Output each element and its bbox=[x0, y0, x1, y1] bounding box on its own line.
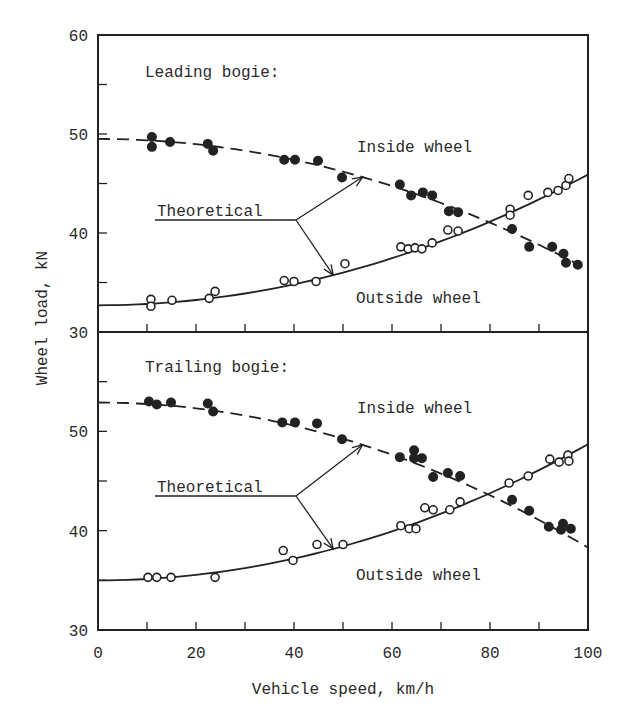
inside-wheel-data-point bbox=[407, 191, 415, 199]
outside-wheel-data-point bbox=[546, 455, 554, 463]
leading-inside-wheel-label: Inside wheel bbox=[357, 139, 472, 157]
outside-wheel-data-point bbox=[429, 506, 437, 514]
outside-wheel-data-point bbox=[397, 522, 405, 530]
x-tick-label: 40 bbox=[284, 645, 303, 663]
inside-wheel-data-point bbox=[209, 407, 217, 415]
outside-wheel-data-point bbox=[446, 506, 454, 514]
outside-wheel-data-point bbox=[167, 573, 175, 581]
y-tick-label: 40 bbox=[69, 524, 88, 542]
inside-wheel-data-point bbox=[313, 419, 321, 427]
leading-theoretical-arrows bbox=[155, 177, 363, 275]
inside-wheel-data-point bbox=[559, 520, 567, 528]
inside-wheel-data-point bbox=[278, 418, 286, 426]
trailing-inside-wheel-label: Inside wheel bbox=[357, 400, 472, 418]
arrow-icon bbox=[352, 177, 363, 186]
outside-wheel-data-point bbox=[554, 186, 562, 194]
inside-wheel-data-point bbox=[548, 243, 556, 251]
inside-wheel-data-point bbox=[314, 157, 322, 165]
inside-wheel-data-point bbox=[508, 496, 516, 504]
inside-wheel-data-point bbox=[167, 398, 175, 406]
trailing-outside-wheel-label: Outside wheel bbox=[356, 567, 481, 585]
leading-bogie-title: Leading bogie: bbox=[145, 64, 279, 82]
x-tick-label: 80 bbox=[480, 645, 499, 663]
inside-wheel-data-point bbox=[429, 473, 437, 481]
inside-wheel-data-point bbox=[166, 138, 174, 146]
outside-wheel-data-point bbox=[555, 458, 563, 466]
y-tick-label: 50 bbox=[69, 424, 88, 442]
outside-wheel-data-point bbox=[524, 191, 532, 199]
wheel-load-chart: Leading bogie: Inside wheel Outside whee… bbox=[0, 0, 636, 727]
y-axis-label: Wheel load, kN bbox=[34, 251, 52, 385]
outside-wheel-data-point bbox=[444, 226, 452, 234]
inside-wheel-theoretical-curve bbox=[98, 403, 588, 548]
outside-wheel-data-point bbox=[418, 245, 426, 253]
inside-wheel-data-point bbox=[525, 507, 533, 515]
outside-wheel-data-point bbox=[144, 573, 152, 581]
outside-wheel-data-point bbox=[147, 302, 155, 310]
inside-wheel-data-point bbox=[396, 180, 404, 188]
inside-wheel-data-point bbox=[559, 250, 567, 258]
inside-wheel-data-point bbox=[574, 260, 582, 268]
arrow-icon bbox=[324, 264, 333, 275]
outside-wheel-data-point bbox=[153, 573, 161, 581]
x-tick-label: 0 bbox=[93, 645, 103, 663]
x-axis-label: Vehicle speed, km/h bbox=[252, 681, 434, 699]
outside-wheel-data-point bbox=[205, 294, 213, 302]
inside-wheel-data-point bbox=[567, 524, 575, 532]
inside-wheel-data-point bbox=[525, 243, 533, 251]
arrow-icon bbox=[324, 538, 333, 549]
y-tick-label: 30 bbox=[69, 325, 88, 343]
inside-wheel-data-point bbox=[428, 191, 436, 199]
inside-wheel-data-point bbox=[419, 188, 427, 196]
outside-wheel-theoretical-curve bbox=[98, 444, 588, 580]
outside-wheel-data-point bbox=[421, 504, 429, 512]
outside-wheel-theoretical-curve bbox=[98, 175, 588, 306]
leading-outside-wheel-label: Outside wheel bbox=[356, 290, 481, 308]
inside-wheel-data-point bbox=[508, 225, 516, 233]
inside-wheel-data-point bbox=[444, 469, 452, 477]
outside-wheel-data-point bbox=[544, 188, 552, 196]
inside-wheel-data-point bbox=[562, 259, 570, 267]
trailing-bogie-panel: Trailing bogie: Inside wheel Outside whe… bbox=[98, 359, 588, 585]
axes: 02040608010030405060304050 bbox=[69, 28, 603, 663]
outside-wheel-data-point bbox=[313, 541, 321, 549]
inside-wheel-data-point bbox=[396, 453, 404, 461]
inside-wheel-data-point bbox=[291, 156, 299, 164]
outside-wheel-data-point bbox=[428, 239, 436, 247]
leading-bogie-panel: Leading bogie: Inside wheel Outside whee… bbox=[98, 64, 588, 310]
outside-wheel-data-point bbox=[412, 525, 420, 533]
inside-wheel-data-point bbox=[410, 446, 418, 454]
inside-wheel-data-point bbox=[148, 143, 156, 151]
outside-wheel-data-point bbox=[565, 175, 573, 183]
outside-wheel-data-point bbox=[289, 556, 297, 564]
inside-wheel-data-point bbox=[209, 147, 217, 155]
outside-wheel-data-point bbox=[168, 296, 176, 304]
outside-wheel-data-point bbox=[506, 211, 514, 219]
outside-wheel-data-point bbox=[279, 547, 287, 555]
outside-wheel-data-point bbox=[211, 287, 219, 295]
leading-theoretical-label: Theoretical bbox=[157, 203, 263, 221]
outside-wheel-data-point bbox=[565, 457, 573, 465]
inside-wheel-data-point bbox=[148, 133, 156, 141]
outside-wheel-data-point bbox=[339, 541, 347, 549]
outside-wheel-data-point bbox=[505, 479, 513, 487]
inside-wheel-data-point bbox=[338, 435, 346, 443]
x-tick-label: 100 bbox=[574, 645, 603, 663]
inside-wheel-data-point bbox=[418, 454, 426, 462]
inside-wheel-data-point bbox=[456, 472, 464, 480]
outside-wheel-data-point bbox=[280, 277, 288, 285]
inside-wheel-data-point bbox=[545, 522, 553, 530]
outside-wheel-data-point bbox=[456, 498, 464, 506]
outside-wheel-data-point bbox=[454, 227, 462, 235]
x-tick-label: 20 bbox=[186, 645, 205, 663]
outside-wheel-data-point bbox=[290, 278, 298, 286]
outside-wheel-data-point bbox=[341, 260, 349, 268]
inside-wheel-data-point bbox=[454, 208, 462, 216]
inside-wheel-data-point bbox=[204, 399, 212, 407]
y-tick-label: 40 bbox=[69, 226, 88, 244]
inside-wheel-data-point bbox=[153, 400, 161, 408]
y-tick-label: 60 bbox=[69, 28, 88, 46]
outside-wheel-data-point bbox=[211, 573, 219, 581]
outside-wheel-data-point bbox=[312, 278, 320, 286]
outside-wheel-data-point bbox=[524, 472, 532, 480]
